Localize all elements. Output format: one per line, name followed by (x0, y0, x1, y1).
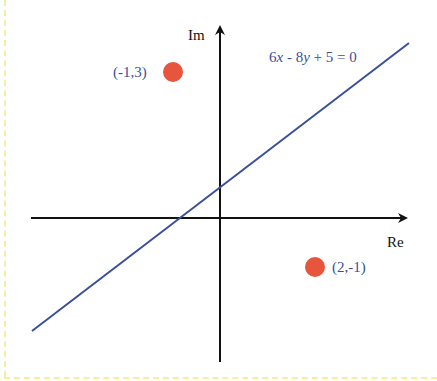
eq-constant: + 5 = 0 (310, 49, 357, 65)
x-axis-label: Re (387, 235, 404, 250)
eq-coef-y: - 8 (283, 49, 303, 65)
diagram-canvas: Im Re 6x - 8y + 5 = 0 (-1,3) (2,-1) (0, 0, 437, 381)
y-axis-label: Im (188, 28, 205, 43)
point-label-2-neg1: (2,-1) (332, 260, 366, 275)
point-neg1-3 (163, 62, 183, 82)
eq-var-y: y (303, 49, 310, 65)
line-equation-label: 6x - 8y + 5 = 0 (269, 50, 357, 65)
point-label-neg1-3: (-1,3) (113, 65, 147, 80)
point-2-neg1 (305, 257, 325, 277)
eq-coef-x: 6 (269, 49, 277, 65)
plot-area (0, 0, 437, 381)
